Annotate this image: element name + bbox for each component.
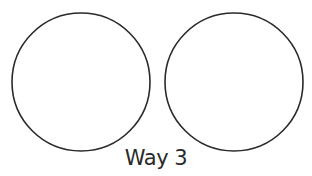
caption: Way 3 — [0, 146, 312, 170]
right-circle — [165, 13, 303, 151]
left-circle — [12, 13, 150, 151]
